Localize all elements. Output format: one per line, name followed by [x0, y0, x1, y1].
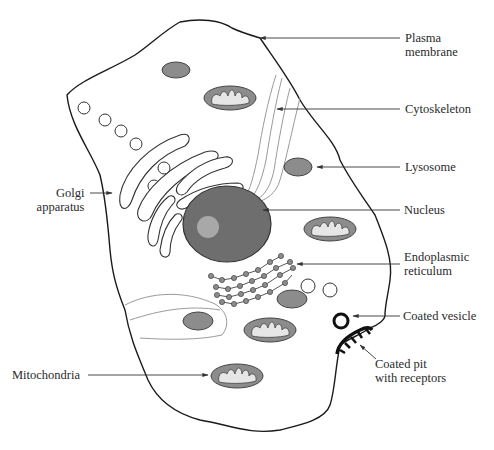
label-endoplasmic-reticulum: Endoplasmic reticulum	[404, 250, 469, 278]
label-coated-vesicle: Coated vesicle	[403, 309, 476, 323]
label-mitochondria: Mitochondria	[12, 368, 80, 382]
label-golgi-apparatus: Golgi apparatus	[32, 186, 84, 214]
label-lysosome: Lysosome	[405, 160, 456, 174]
coated-vesicle	[334, 314, 348, 328]
label-plasma-membrane: Plasma membrane	[405, 31, 458, 59]
nucleolus	[197, 216, 219, 238]
label-nucleus: Nucleus	[404, 203, 445, 217]
label-cytoskeleton: Cytoskeleton	[405, 102, 471, 116]
nucleus	[183, 186, 271, 262]
label-coated-pit: Coated pit with receptors	[375, 357, 446, 385]
vesicles-pair	[301, 279, 337, 297]
coated-pit	[337, 328, 372, 354]
